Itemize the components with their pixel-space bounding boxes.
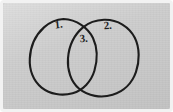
region-label-2: 2. (103, 19, 112, 32)
region-label-3-text: 3. (79, 32, 89, 45)
region-label-2-text: 2. (103, 19, 112, 32)
region-label-1: 1. (54, 18, 64, 31)
region-label-3: 3. (79, 32, 89, 45)
venn-diagram-canvas: 1. 2. 3. (0, 0, 173, 112)
venn-diagram-page: 1. 2. 3. (0, 0, 173, 112)
region-right-only[interactable] (91, 28, 135, 88)
region-label-1-text: 1. (54, 18, 64, 31)
